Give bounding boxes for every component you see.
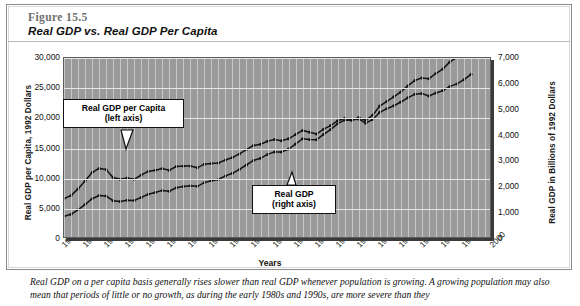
grid-vline (211, 58, 212, 237)
grid-vline (401, 58, 402, 237)
right-tick-label: 5,000 (498, 104, 542, 114)
grid-hline (64, 58, 490, 59)
grid-vline (204, 58, 205, 237)
grid-vline (380, 58, 381, 237)
left-tick-label: 15,000 (16, 143, 60, 153)
grid-vline (99, 58, 100, 237)
grid-vline (134, 58, 135, 237)
grid-vline (225, 58, 226, 237)
grid-vline (92, 58, 93, 237)
right-axis-title: Real GDP in Billions of 1992 Dollars (548, 73, 557, 233)
grid-vline (457, 58, 458, 237)
grid-hline (64, 88, 490, 89)
grid-vline (71, 58, 72, 237)
grid-vline (338, 58, 339, 237)
title-divider (8, 41, 570, 42)
grid-vline (394, 58, 395, 237)
grid-vline (359, 58, 360, 237)
grid-vline (106, 58, 107, 237)
x-axis-title: Years (210, 258, 330, 268)
grid-vline (120, 58, 121, 237)
grid-vline (429, 58, 430, 237)
grid-vline (127, 58, 128, 237)
grid-vline (169, 58, 170, 237)
grid-vline (246, 58, 247, 237)
callout-real-gdp-line2: (right axis) (258, 199, 330, 209)
right-tick-label: 3,000 (498, 155, 542, 165)
grid-vline (415, 58, 416, 237)
grid-vline (85, 58, 86, 237)
right-axis-ticks: 01,0002,0003,0004,0005,0006,0007,000 (498, 0, 546, 306)
grid-vline (176, 58, 177, 237)
left-tick-label: 20,000 (16, 112, 60, 122)
callout-per-capita: Real GDP per Capita (left axis) (63, 99, 184, 128)
grid-hline (64, 149, 490, 150)
grid-vline (422, 58, 423, 237)
grid-hline (64, 179, 490, 180)
grid-vline (352, 58, 353, 237)
right-tick-label: 6,000 (498, 78, 542, 88)
right-tick-label: 1,000 (498, 207, 542, 217)
grid-vline (162, 58, 163, 237)
grid-vline (141, 58, 142, 237)
callout-per-capita-line1: Real GDP per Capita (82, 103, 165, 113)
grid-vline (436, 58, 437, 237)
grid-vline (485, 58, 486, 237)
grid-vline (408, 58, 409, 237)
left-tick-label: 0 (16, 233, 60, 243)
grid-vline (443, 58, 444, 237)
left-tick-label: 5,000 (16, 203, 60, 213)
left-tick-label: 30,000 (16, 52, 60, 62)
left-tick-label: 10,000 (16, 173, 60, 183)
grid-vline (218, 58, 219, 237)
grid-vline (183, 58, 184, 237)
grid-vline (373, 58, 374, 237)
grid-vline (64, 58, 65, 237)
grid-vline (450, 58, 451, 237)
grid-vline (239, 58, 240, 237)
grid-vline (190, 58, 191, 237)
figure-caption: Real GDP on a per capita basis generally… (30, 276, 558, 301)
grid-vline (78, 58, 79, 237)
grid-vline (366, 58, 367, 237)
grid-vline (148, 58, 149, 237)
grid-vline (232, 58, 233, 237)
grid-vline (155, 58, 156, 237)
left-tick-label: 25,000 (16, 82, 60, 92)
callout-real-gdp: Real GDP (right axis) (252, 185, 336, 214)
callout-real-gdp-line1: Real GDP (274, 189, 313, 199)
grid-vline (471, 58, 472, 237)
grid-vline (478, 58, 479, 237)
grid-vline (113, 58, 114, 237)
grid-vline (197, 58, 198, 237)
figure-root: Figure 15.5 Real GDP vs. Real GDP Per Ca… (0, 0, 580, 306)
right-tick-label: 4,000 (498, 130, 542, 140)
grid-vline (345, 58, 346, 237)
grid-vline (387, 58, 388, 237)
left-axis-ticks: 05,00010,00015,00020,00025,00030,000 (12, 0, 60, 306)
callout-per-capita-line2: (left axis) (69, 113, 178, 123)
right-tick-label: 7,000 (498, 52, 542, 62)
grid-vline (464, 58, 465, 237)
right-tick-label: 2,000 (498, 181, 542, 191)
